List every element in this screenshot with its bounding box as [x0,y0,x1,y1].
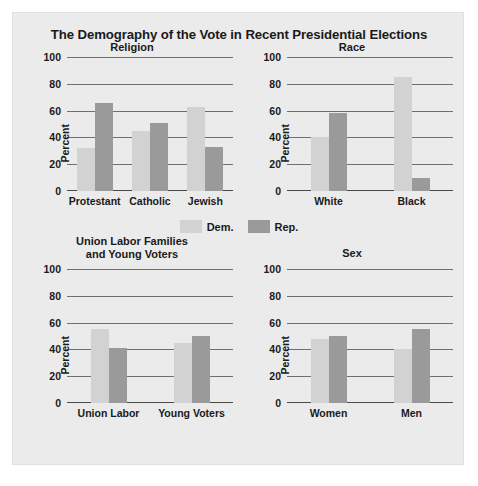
bar-rep [109,348,127,403]
plot-area-union-labor-young-voters: 020406080100PercentUnion LaborYoung Vote… [67,269,233,403]
x-tick-label: Union Labor [78,407,140,419]
bar-rep [329,336,347,403]
y-tick-label: 80 [49,290,61,302]
bar-dem [132,131,150,191]
bar-dem [311,137,329,191]
gridline [67,111,233,112]
bar-dem [91,329,109,403]
chart-religion: Religion 020406080100PercentProtestantCa… [19,41,245,227]
gridline [67,269,233,270]
legend-swatch-rep-icon [248,220,270,233]
y-tick-label: 80 [269,78,281,90]
x-tick-label: Young Voters [158,407,225,419]
gridline [287,269,453,270]
chart-race: Race 020406080100PercentWhiteBlack [239,41,465,227]
y-tick-label: 80 [49,78,61,90]
bar-rep [412,178,430,191]
y-tick-label: 60 [269,317,281,329]
x-tick-label: Catholic [129,195,170,207]
plot-area-sex: 020406080100PercentWomenMen [287,269,453,403]
y-tick-label: 60 [269,105,281,117]
gridline [287,111,453,112]
legend-entry-dem: Dem. [180,220,234,233]
y-axis-label: Percent [59,124,71,163]
gridline [67,57,233,58]
y-tick-label: 0 [275,397,281,409]
bar-rep [95,103,113,191]
gridline [67,84,233,85]
gridline [287,57,453,58]
chart-title-sex: Sex [239,247,465,260]
legend-label-rep: Rep. [275,221,299,233]
chart-title-union-labor-young-voters: Union Labor Families and Young Voters [19,235,245,261]
y-axis-label: Percent [59,336,71,375]
y-tick-label: 100 [263,263,281,275]
x-tick-label: Black [397,195,425,207]
bar-rep [150,123,168,191]
y-axis-label: Percent [279,124,291,163]
chart-title-line-1: Union Labor Families [19,235,245,248]
y-tick-label: 0 [55,185,61,197]
x-tick-label: Women [310,407,348,419]
plot-area-religion: 020406080100PercentProtestantCatholicJew… [67,57,233,191]
gridline [287,84,453,85]
legend-label-dem: Dem. [207,221,234,233]
bar-rep [205,147,223,191]
bar-dem [174,343,192,403]
bar-dem [394,349,412,403]
legend: Dem. Rep. [13,220,465,233]
y-tick-label: 100 [263,51,281,63]
gridline [287,323,453,324]
gridline [67,323,233,324]
x-tick-label: White [314,195,343,207]
plot-area-race: 020406080100PercentWhiteBlack [287,57,453,191]
bar-rep [329,113,347,191]
y-tick-label: 60 [49,317,61,329]
chart-title-line-2: and Young Voters [19,248,245,261]
bar-rep [192,336,210,403]
gridline [287,296,453,297]
legend-entry-rep: Rep. [248,220,299,233]
y-tick-label: 60 [49,105,61,117]
y-tick-label: 80 [269,290,281,302]
x-tick-label: Jewish [188,195,223,207]
y-tick-label: 0 [275,185,281,197]
bar-dem [187,107,205,191]
y-tick-label: 100 [43,263,61,275]
bar-rep [412,329,430,403]
bar-dem [311,339,329,403]
figure-panel: The Demography of the Vote in Recent Pre… [12,12,464,465]
chart-sex: Sex 020406080100PercentWomenMen [239,247,465,433]
y-tick-label: 0 [55,397,61,409]
figure-title: The Demography of the Vote in Recent Pre… [13,27,465,42]
y-axis-label: Percent [279,336,291,375]
x-tick-label: Protestant [69,195,121,207]
chart-union-labor-young-voters: Union Labor Families and Young Voters 02… [19,247,245,433]
bar-dem [77,148,95,191]
x-tick-label: Men [401,407,422,419]
gridline [67,296,233,297]
bar-dem [394,77,412,191]
y-tick-label: 100 [43,51,61,63]
legend-swatch-dem-icon [180,220,202,233]
